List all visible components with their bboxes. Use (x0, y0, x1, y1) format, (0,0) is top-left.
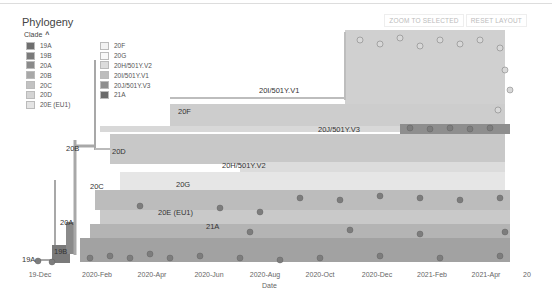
clade-header-label: Clade (24, 31, 42, 38)
swatch-icon (100, 52, 109, 60)
x-tick: 2020-Feb (82, 271, 112, 278)
branch-label-20f: 20F (178, 107, 191, 116)
swatch-icon (26, 71, 35, 79)
branch-label-20b: 20B (66, 144, 79, 153)
x-tick: 19-Dec (29, 271, 52, 278)
tree-controls: ZOOM TO SELECTED RESET LAYOUT (384, 14, 527, 27)
swatch-icon (26, 42, 35, 50)
reset-layout-button[interactable]: RESET LAYOUT (466, 14, 527, 27)
panel-title: Phylogeny (22, 16, 73, 28)
swatch-icon (26, 52, 35, 60)
x-tick: 2020-Oct (306, 271, 335, 278)
x-tick: 20 (523, 271, 531, 278)
legend-item-20e[interactable]: 20E (EU1) (26, 100, 70, 110)
swatch-icon (100, 42, 109, 50)
chevron-up-icon: ^ (45, 31, 49, 38)
branch-label-21a: 21A (206, 222, 219, 231)
swatch-icon (26, 81, 35, 89)
x-tick: 2020-Dec (362, 271, 392, 278)
x-tick: 2021-Feb (417, 271, 447, 278)
legend-column-1: 19A 19B 20A 20B 20C 20D 20E (EU1) (26, 41, 70, 110)
legend-item-20a[interactable]: 20A (26, 61, 70, 71)
legend-item-20f[interactable]: 20F (100, 41, 152, 51)
swatch-icon (100, 81, 109, 89)
legend-item-21a[interactable]: 21A (100, 90, 152, 100)
swatch-icon (100, 71, 109, 79)
clade-legend-toggle[interactable]: Clade ^ (24, 31, 49, 38)
branch-label-19a: 19A (22, 255, 35, 264)
x-axis-label: Date (262, 282, 277, 289)
branch-label-19b: 19B (54, 247, 67, 256)
phylogeny-tree[interactable] (0, 0, 552, 303)
swatch-icon (26, 61, 35, 69)
branch-label-20e: 20E (EU1) (158, 208, 193, 217)
legend-item-20b[interactable]: 20B (26, 70, 70, 80)
legend-item-20c[interactable]: 20C (26, 80, 70, 90)
swatch-icon (26, 101, 35, 109)
x-tick: 2020-Aug (250, 271, 280, 278)
legend-column-2: 20F 20G 20H/501Y.V2 20I/501Y.V1 20J/501Y… (100, 41, 152, 100)
swatch-icon (100, 91, 109, 99)
x-tick: 2020-Apr (138, 271, 167, 278)
branch-label-20g: 20G (176, 180, 190, 189)
legend-item-20g[interactable]: 20G (100, 51, 152, 61)
branch-label-20j: 20J/501Y.V3 (318, 125, 360, 134)
legend-item-20i[interactable]: 20I/501Y.V1 (100, 70, 152, 80)
legend-item-20j[interactable]: 20J/501Y.V3 (100, 80, 152, 90)
swatch-icon (26, 91, 35, 99)
branch-label-20d: 20D (112, 147, 126, 156)
x-tick: 2021-Apr (472, 271, 501, 278)
legend-item-20d[interactable]: 20D (26, 90, 70, 100)
branch-label-20i: 20I/501Y.V1 (259, 86, 299, 95)
legend-item-19a[interactable]: 19A (26, 41, 70, 51)
swatch-icon (100, 61, 109, 69)
legend-item-19b[interactable]: 19B (26, 51, 70, 61)
branch-label-20h: 20H/501Y.V2 (222, 161, 266, 170)
branch-label-20c: 20C (90, 182, 104, 191)
legend-item-20h[interactable]: 20H/501Y.V2 (100, 61, 152, 71)
x-tick: 2020-Jun (194, 271, 223, 278)
zoom-to-selected-button[interactable]: ZOOM TO SELECTED (384, 14, 463, 27)
branch-label-20a: 20A (60, 218, 73, 227)
